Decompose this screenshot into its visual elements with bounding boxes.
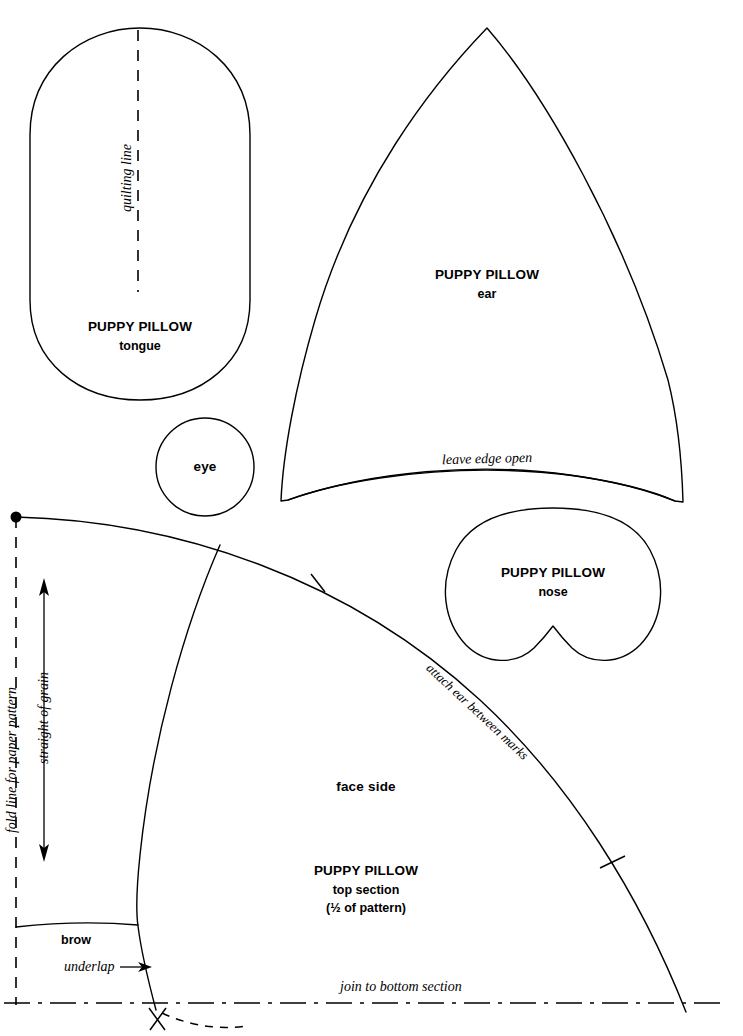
bottom-section-hint-curve: [162, 1013, 246, 1027]
ear-outline: [281, 28, 683, 502]
top-section-outer-arc: [16, 517, 686, 1012]
top-section-inner-curve: [137, 545, 220, 1010]
top-section-brand-label: PUPPY PILLOW: [314, 862, 418, 879]
ear-attach-tick-lower: [600, 856, 625, 868]
top-section-name-label: top section: [333, 882, 400, 898]
underlap-label: underlap: [64, 958, 115, 976]
quilting-line-label: quilting line: [118, 144, 136, 212]
tongue-name-label: tongue: [119, 338, 161, 354]
tongue-brand-label: PUPPY PILLOW: [88, 318, 192, 335]
nose-brand-label: PUPPY PILLOW: [501, 564, 605, 581]
ear-brand-label: PUPPY PILLOW: [435, 266, 539, 283]
fold-line-label: fold line for paper pattern: [3, 687, 21, 833]
pattern-line-art: [0, 0, 743, 1036]
top-section-fraction-label: (½ of pattern): [326, 900, 406, 916]
leave-edge-open-label: leave edge open: [442, 449, 533, 469]
notch-mark-bottom: [149, 1008, 166, 1030]
brow-label: brow: [61, 932, 91, 948]
face-side-label: face side: [336, 778, 396, 795]
nose-name-label: nose: [538, 584, 567, 600]
brow-line: [16, 923, 138, 927]
ear-open-edge: [288, 469, 675, 501]
straight-of-grain-label: straight of grain: [35, 672, 53, 764]
ear-name-label: ear: [478, 286, 497, 302]
eye-label: eye: [193, 458, 216, 475]
origin-dot: [11, 512, 22, 523]
join-to-bottom-label: join to bottom section: [340, 978, 462, 996]
pattern-sheet: PUPPY PILLOW tongue quilting line PUPPY …: [0, 0, 743, 1036]
